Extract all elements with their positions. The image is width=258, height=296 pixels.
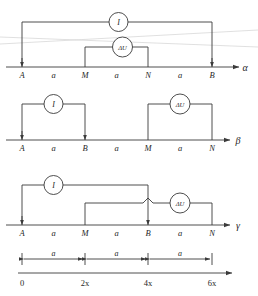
- scale-tick-label-2: 4x: [144, 278, 153, 288]
- diagram-beta: I ΔU A B M N a a a β: [6, 94, 241, 153]
- alpha-current-meter-label: I: [116, 18, 120, 27]
- gamma-axis-label: γ: [236, 220, 241, 231]
- gamma-current-wire-right: [63, 185, 148, 216]
- gamma-electrode-label-A: A: [18, 228, 25, 238]
- scale-tick-label-3: 6x: [208, 278, 217, 288]
- beta-voltage-wire-left: [148, 104, 170, 140]
- beta-voltage-wire-right: [190, 104, 212, 140]
- beta-axis-label: β: [235, 135, 241, 146]
- gamma-current-wire-left: [22, 185, 44, 222]
- gamma-voltage-meter-label: ΔU: [175, 200, 186, 207]
- scale-bar: a a a 0 2x 4x 6x: [18, 249, 232, 288]
- alpha-voltage-meter-label: ΔU: [117, 44, 128, 51]
- gamma-spacing-label-1: a: [51, 228, 55, 238]
- beta-spacing-label-2: a: [114, 143, 118, 153]
- beta-electrode-label-B: B: [82, 143, 87, 153]
- beta-current-wire-left: [22, 104, 44, 137]
- gamma-spacing-label-2: a: [114, 228, 118, 238]
- alpha-electrode-label-A: A: [18, 70, 25, 80]
- alpha-electrode-label-B: B: [209, 70, 214, 80]
- beta-voltage-meter-label: ΔU: [175, 101, 186, 108]
- alpha-voltage-wire-right: [132, 47, 148, 67]
- alpha-axis-label: α: [242, 62, 248, 73]
- scale-tick-label-0: 0: [20, 278, 24, 288]
- scale-tick-label-1: 2x: [81, 278, 90, 288]
- beta-current-meter-label: I: [51, 100, 55, 109]
- gamma-current-meter-label: I: [51, 181, 55, 190]
- beta-spacing-label-3: a: [178, 143, 182, 153]
- gamma-electrode-label-N: N: [208, 228, 216, 238]
- alpha-spacing-label-2: a: [114, 70, 118, 80]
- alpha-voltage-wire-left: [85, 47, 113, 67]
- figure-root: I ΔU A M N B a a a α: [0, 0, 258, 296]
- beta-electrode-label-A: A: [18, 143, 25, 153]
- alpha-spacing-label-1: a: [51, 70, 55, 80]
- gamma-voltage-wire-left: [85, 203, 143, 225]
- alpha-electrode-label-N: N: [144, 70, 152, 80]
- alpha-current-wire-left: [22, 22, 109, 64]
- beta-electrode-label-N: N: [208, 143, 216, 153]
- gamma-electrode-label-M: M: [80, 228, 89, 238]
- gamma-electrode-label-B: B: [145, 228, 150, 238]
- scale-dimension-label-2: a: [115, 249, 119, 258]
- alpha-current-wire-right: [128, 22, 212, 64]
- beta-spacing-label-1: a: [51, 143, 55, 153]
- diagram-alpha: I ΔU A M N B a a a α: [6, 13, 248, 81]
- scale-dimension-label-1: a: [52, 249, 56, 258]
- beta-current-wire-right: [63, 104, 85, 131]
- alpha-electrode-label-M: M: [80, 70, 89, 80]
- beta-electrode-label-M: M: [143, 143, 152, 153]
- alpha-spacing-label-3: a: [178, 70, 182, 80]
- diagram-gamma: I ΔU A M B N a a a γ: [6, 176, 241, 239]
- gamma-voltage-wire-right: [190, 203, 212, 225]
- gamma-spacing-label-3: a: [178, 228, 182, 238]
- scale-dimension-label-3: a: [178, 249, 182, 258]
